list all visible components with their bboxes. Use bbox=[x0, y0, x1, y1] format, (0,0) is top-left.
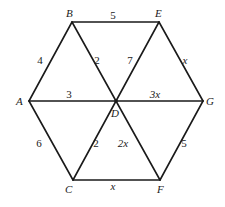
edge-weight-gf: 5 bbox=[181, 137, 187, 149]
edge-weight-be: 5 bbox=[110, 9, 116, 21]
vertex-label-a: A bbox=[15, 95, 23, 107]
edge-weight-ad: 3 bbox=[66, 88, 72, 100]
vertex-dot-d bbox=[114, 99, 118, 103]
vertex-label-b: B bbox=[66, 7, 73, 19]
vertex-dots-group bbox=[114, 99, 118, 103]
weighted-hexagon-graph: 5427x33x622x5x ABEGFCD bbox=[0, 0, 225, 207]
edge-weight-eg: x bbox=[182, 54, 188, 66]
vertex-label-d: D bbox=[110, 107, 119, 119]
vertex-label-g: G bbox=[206, 95, 214, 107]
vertex-label-f: F bbox=[156, 183, 164, 195]
edge-weight-ac: 6 bbox=[36, 137, 42, 149]
edge-weight-cf: x bbox=[110, 180, 116, 192]
edge-weight-dg: 3x bbox=[149, 88, 161, 100]
edge-weight-cd: 2 bbox=[93, 137, 99, 149]
edge-weight-ed: 7 bbox=[127, 54, 133, 66]
vertex-label-e: E bbox=[154, 7, 162, 19]
edge-weight-ab: 4 bbox=[37, 54, 43, 66]
edge-eg bbox=[159, 22, 203, 101]
edge-weight-df: 2x bbox=[118, 137, 129, 149]
vertex-label-c: C bbox=[65, 183, 73, 195]
edge-weight-bd: 2 bbox=[94, 54, 100, 66]
